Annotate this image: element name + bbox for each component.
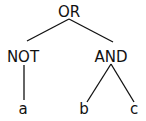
edge-and-b — [87, 64, 111, 102]
leaf-c: c — [130, 100, 138, 118]
expression-tree: OR NOT AND a b c — [0, 0, 146, 121]
leaf-b: b — [79, 100, 89, 118]
edge-and-c — [111, 64, 134, 102]
node-or: OR — [58, 3, 80, 21]
edge-or-not — [27, 19, 69, 41]
node-and: AND — [94, 48, 127, 66]
leaf-a: a — [18, 100, 27, 118]
node-not: NOT — [7, 48, 40, 66]
edge-or-and — [69, 19, 113, 42]
